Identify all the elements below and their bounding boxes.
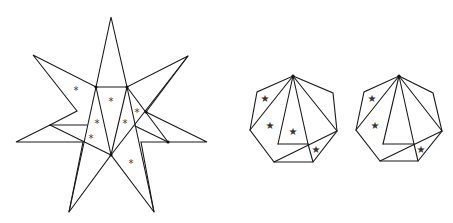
star-outline	[16, 17, 207, 212]
star-asterisk-marker: *	[123, 118, 128, 129]
seven-point-star-figure: *******	[16, 17, 207, 212]
heptagon-figure-2: ★★★	[356, 74, 442, 161]
star-asterisk-marker: *	[89, 133, 94, 144]
star-asterisk-marker: *	[129, 158, 134, 169]
heptagon1-vertex-dot	[291, 74, 294, 77]
star-dissection-line	[50, 125, 111, 155]
star-dissection-line	[135, 126, 168, 142]
star-asterisk-marker: *	[135, 107, 140, 118]
heptagon1-star-marker: ★	[266, 120, 275, 131]
star-vertex-dot	[144, 110, 147, 113]
star-vertex-dot	[94, 85, 97, 88]
star-asterisk-marker: *	[95, 118, 100, 129]
star-vertex-dot	[109, 153, 112, 156]
heptagon1-outline	[250, 76, 337, 162]
heptagon1-star-marker: ★	[261, 93, 270, 104]
heptagon-figure-1: ★★★★	[250, 74, 337, 162]
heptagon2-dissection-line	[380, 131, 442, 161]
heptagon1-star-marker: ★	[312, 144, 321, 155]
star-vertex-dot	[166, 140, 169, 143]
heptagon2-star-marker: ★	[417, 144, 426, 155]
heptagon2-outline	[356, 76, 442, 161]
star-vertex-dot	[125, 85, 128, 88]
heptagon2-star-marker: ★	[368, 93, 377, 104]
heptagon1-star-marker: ★	[289, 126, 298, 137]
star-asterisk-marker: *	[74, 85, 79, 96]
heptagon1-dissection-line	[274, 131, 337, 162]
dissection-diagram: ******* ★★★★ ★★★	[0, 0, 453, 223]
heptagon2-vertex-dot	[397, 74, 400, 77]
heptagon2-star-marker: ★	[371, 120, 380, 131]
star-asterisk-marker: *	[109, 96, 114, 107]
